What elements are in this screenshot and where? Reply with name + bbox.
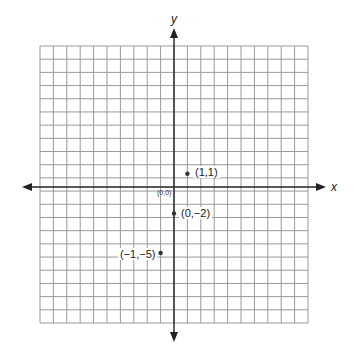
x-axis-label: x [331,180,337,194]
point-label-0-neg2: (0,−2) [179,207,212,219]
point-label-neg1-neg5: (−1,−5) [118,248,157,260]
plotted-point [172,211,176,215]
x-axis-arrow-left-icon [22,183,32,191]
y-axis-label: y [171,12,177,26]
y-axis-arrow-up-icon [170,28,178,38]
y-axis-arrow-down-icon [170,332,178,342]
grid-svg [0,0,354,356]
coordinate-plane: x y (0,0) (1,1) (0,−2) (−1,−5) [0,0,354,356]
plotted-point [185,172,189,176]
origin-label: (0,0) [157,189,171,196]
point-label-1-1: (1,1) [193,166,220,178]
plotted-point [158,251,162,255]
x-axis-arrow-right-icon [316,183,326,191]
